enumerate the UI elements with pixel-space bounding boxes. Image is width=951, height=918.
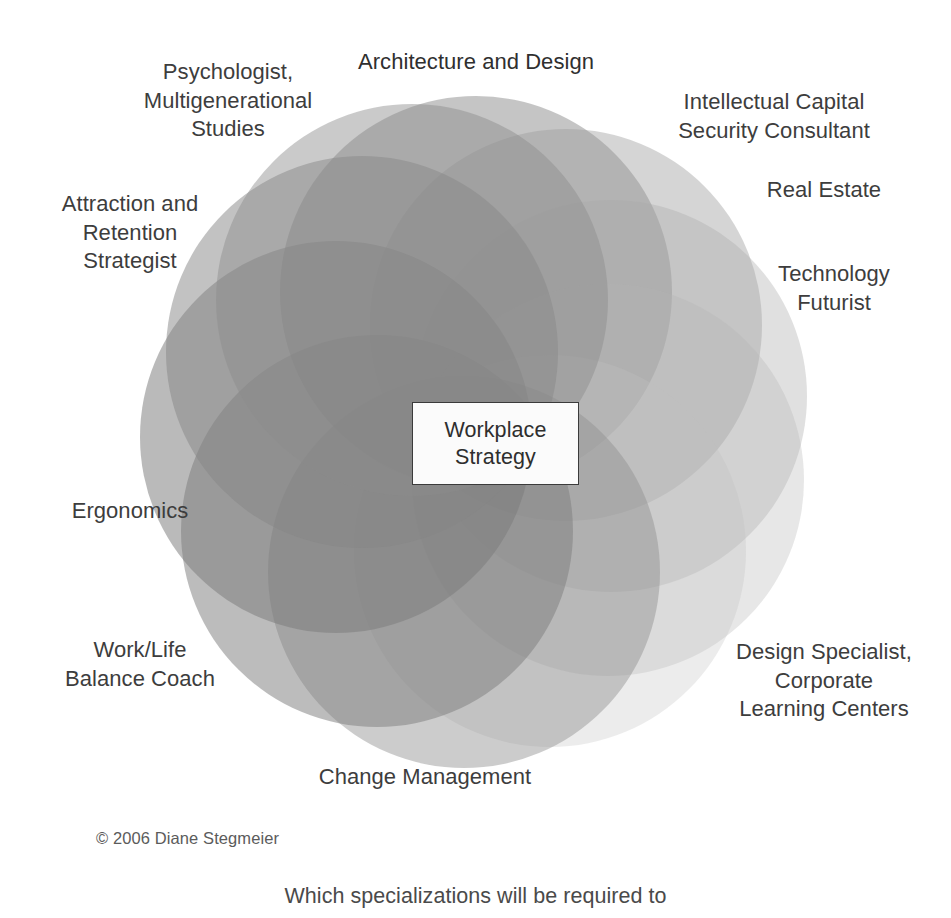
workplace-strategy-figure: Workplace Strategy Architecture and Desi… (0, 0, 951, 918)
circle-real-estate (415, 200, 807, 592)
label-technology-futurist: Technology Futurist (720, 260, 948, 317)
center-callout-workplace-strategy: Workplace Strategy (412, 402, 579, 485)
label-design-specialist-corporate-learning-centers: Design Specialist, Corporate Learning Ce… (700, 638, 948, 724)
label-psychologist-multigenerational-studies: Psychologist, Multigenerational Studies (98, 58, 358, 144)
label-change-management: Change Management (265, 763, 585, 792)
copyright-notice: © 2006 Diane Stegmeier (96, 829, 279, 848)
center-label-line2: Strategy (455, 444, 536, 470)
label-real-estate: Real Estate (700, 176, 948, 205)
figure-caption: Which specializations will be required t… (0, 884, 951, 909)
label-work-life-balance-coach: Work/Life Balance Coach (10, 636, 270, 693)
label-attraction-and-retention-strategist: Attraction and Retention Strategist (10, 190, 250, 276)
label-ergonomics: Ergonomics (10, 497, 250, 526)
label-intellectual-capital-security-consultant: Intellectual Capital Security Consultant (600, 88, 948, 145)
center-label-line1: Workplace (444, 417, 546, 443)
